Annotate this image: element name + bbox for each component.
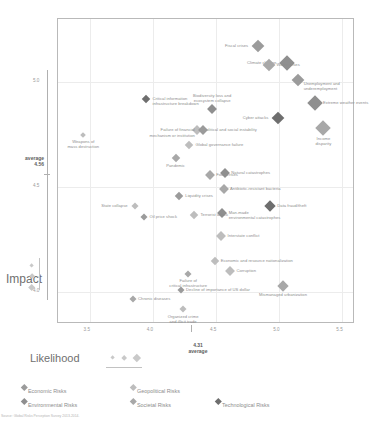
y-axis-tick: 4.5: [33, 183, 39, 188]
scatter-plot-area: Fiscal crisesClimate changeWater crisesU…: [57, 18, 354, 323]
risk-point-label: Interstate conflict: [228, 233, 260, 238]
risk-point[interactable]: [190, 210, 198, 218]
risk-point-label: Decline of importance of US dollar: [186, 287, 250, 292]
size-legend-diamond: [110, 356, 115, 361]
risk-point-label: Mismanaged urbanization: [253, 292, 313, 297]
gridline-vertical: [216, 19, 217, 322]
y-average-value: 4.56: [34, 161, 44, 167]
y-axis-line: [47, 70, 48, 300]
legend-diamond: [215, 398, 221, 404]
risk-point[interactable]: [171, 154, 179, 162]
size-legend-diamond: [133, 354, 141, 362]
legend-diamond: [21, 384, 27, 390]
x-axis-tick: 5.0: [273, 327, 279, 332]
y-axis-tick: 5.0: [33, 78, 39, 83]
risk-point[interactable]: [272, 111, 285, 124]
risk-point-label: Cyber attacks: [243, 115, 269, 120]
y-average-tick: [44, 174, 50, 175]
risk-point-label: Global governance failure: [195, 142, 243, 147]
x-average-annotation: 4.31average: [178, 342, 218, 354]
risk-point[interactable]: [175, 191, 183, 199]
legend-item-label[interactable]: Geopolitical Risks: [137, 388, 180, 394]
risk-point-label: Fiscal crises: [225, 43, 248, 48]
x-average-caption: average: [189, 348, 208, 354]
x-axis-tick: 4.0: [147, 327, 153, 332]
risk-point-label: Data fraud/theft: [277, 203, 306, 208]
risk-point[interactable]: [185, 270, 192, 277]
legend-item-label[interactable]: Economic Risks: [28, 388, 66, 394]
risk-point-label: Natural catastrophes: [231, 170, 270, 175]
source-footnote: Source: Global Risks Perception Survey 2…: [1, 414, 79, 418]
risk-point[interactable]: [251, 40, 264, 53]
size-legend-diamond: [30, 263, 35, 268]
x-axis-tick: 4.5: [210, 327, 216, 332]
risk-point[interactable]: [205, 170, 215, 180]
risk-point[interactable]: [225, 266, 235, 276]
risk-point[interactable]: [185, 141, 193, 149]
risk-point[interactable]: [210, 257, 218, 265]
risk-point-label: Extreme weather events: [323, 100, 368, 105]
risk-point-label: Organized crime and illicit trade: [153, 314, 213, 324]
risk-point[interactable]: [307, 95, 323, 111]
risk-point[interactable]: [140, 213, 147, 220]
risk-point[interactable]: [80, 132, 86, 138]
x-axis-label: Likelihood: [30, 352, 80, 364]
risk-point-label: Terrorist attack: [200, 212, 228, 217]
size-legend-diamond: [121, 355, 127, 361]
gridline-horizontal: [58, 187, 353, 188]
legend-diamond: [130, 384, 136, 390]
risk-point-label: Antibiotic-resistant bacteria: [230, 186, 281, 191]
risk-point-label: Water crises: [277, 62, 300, 67]
risk-point-label: Failure of financial mechanism or instit…: [150, 127, 195, 137]
risk-point[interactable]: [219, 184, 229, 194]
risk-point-label: Economic and resource nationalization: [221, 258, 293, 263]
y-average-annotation: average4.56: [14, 155, 44, 167]
risk-point-label: Pandemic: [146, 163, 206, 168]
gridline-vertical: [342, 19, 343, 322]
legend-diamond: [21, 398, 27, 404]
legend-item-label[interactable]: Technological Risks: [222, 402, 269, 408]
risk-point-label: Corruption: [236, 268, 256, 273]
risk-point[interactable]: [292, 74, 305, 87]
risk-point-label: State collapse: [101, 203, 127, 208]
x-axis-tick: 5.5: [336, 327, 342, 332]
risk-point-label: Weapons of mass destruction: [53, 139, 113, 149]
risk-point[interactable]: [132, 203, 139, 210]
risk-point[interactable]: [142, 95, 150, 103]
legend-item-label[interactable]: Societal Risks: [137, 402, 171, 408]
risk-point-label: Unemployment and underemployment: [304, 81, 340, 91]
risk-point[interactable]: [180, 306, 187, 313]
size-legend-arrow-vertical: [39, 258, 40, 290]
risk-point[interactable]: [216, 231, 226, 241]
legend-diamond: [130, 398, 136, 404]
risk-point[interactable]: [316, 121, 332, 137]
gridline-vertical: [153, 19, 154, 322]
risk-point-label: Biodiversity loss and ecosystem collapse: [182, 93, 242, 103]
risk-point-label: Oil price shock: [149, 214, 177, 219]
risk-point-label: Chronic diseases: [138, 296, 170, 301]
x-axis-tick: 3.5: [84, 327, 90, 332]
risk-point-label: Income disparity: [293, 136, 353, 146]
risk-point[interactable]: [129, 295, 136, 302]
y-axis-label: Impact: [6, 272, 42, 286]
legend-item-label[interactable]: Environmental Risks: [28, 402, 77, 408]
x-average-tick: [191, 325, 192, 332]
risk-point-label: Man-made environmental catastrophes: [229, 210, 281, 220]
size-legend-arrow-horizontal: [106, 367, 142, 368]
risk-point-label: Political and social instability: [204, 127, 257, 132]
gridline-vertical: [90, 19, 91, 322]
risk-point-label: Liquidity crises: [185, 193, 213, 198]
